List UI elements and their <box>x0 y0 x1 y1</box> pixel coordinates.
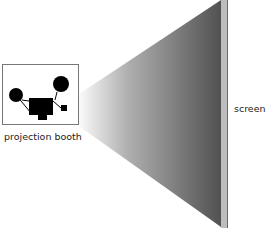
light-beam <box>76 0 221 227</box>
projection-diagram <box>0 0 267 228</box>
booth-label: projection booth <box>4 131 82 142</box>
screen <box>221 0 227 228</box>
screen-label: screen <box>234 103 266 114</box>
